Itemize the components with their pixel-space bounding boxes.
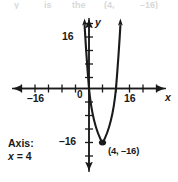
y-tick-label-16: 16 — [62, 31, 73, 42]
y-tick-label-neg16: –16 — [59, 136, 76, 147]
axis-of-symmetry-note: Axis: x = 4 — [8, 137, 34, 163]
parabola-figure: y is the (4, –16) — [0, 0, 178, 182]
origin-label: 0 — [77, 90, 83, 101]
axis-note-line1: Axis: — [8, 137, 34, 150]
vertex-coordinate-label: (4, –16) — [108, 146, 139, 156]
x-tick-label-16: 16 — [124, 93, 135, 104]
axis-note-line2: x = 4 — [8, 150, 34, 163]
y-axis-label: y — [95, 17, 101, 28]
axis-note-value: 4 — [26, 150, 32, 162]
vertex-point-marker — [99, 140, 106, 146]
x-axis-label: x — [165, 92, 171, 103]
axis-note-operator: = — [14, 150, 26, 162]
x-tick-label-neg16: –16 — [27, 93, 44, 104]
